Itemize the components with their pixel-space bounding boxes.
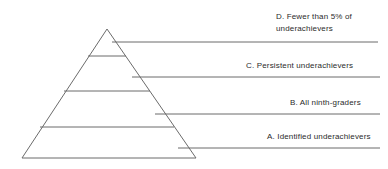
pyramid-triangle bbox=[22, 29, 196, 158]
pyramid-outline bbox=[22, 29, 196, 158]
pyramid-tier-dividers bbox=[40, 56, 174, 127]
callout-label-a: A. Identified underachievers bbox=[267, 131, 382, 143]
callout-label-b: B. All ninth-graders bbox=[290, 97, 382, 109]
pyramid-diagram-figure: D. Fewer than 5% of underachievers C. Pe… bbox=[0, 0, 388, 169]
callout-label-d: D. Fewer than 5% of underachievers bbox=[276, 11, 382, 34]
callout-label-c: C. Persistent underachievers bbox=[246, 60, 382, 72]
